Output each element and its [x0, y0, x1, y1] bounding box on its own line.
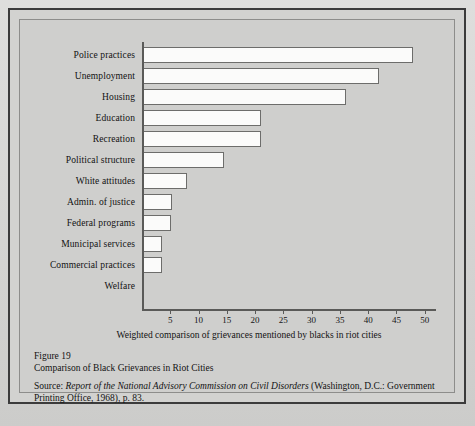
bar-track	[142, 234, 452, 255]
bar-track	[142, 108, 452, 129]
bar-track	[142, 171, 452, 192]
bar-rows: Police practicesUnemploymentHousingEduca…	[20, 45, 454, 297]
bar-track	[142, 87, 452, 108]
bar-track	[142, 213, 452, 234]
x-axis-tick-label: 25	[279, 315, 288, 325]
chart-plot-area: Police practicesUnemploymentHousingEduca…	[20, 20, 454, 306]
page-background: Police practicesUnemploymentHousingEduca…	[0, 0, 475, 426]
x-axis-tick	[312, 309, 313, 314]
figure-number: Figure 19	[34, 350, 440, 362]
x-axis-tick	[227, 309, 228, 314]
bar	[142, 152, 224, 168]
bar	[142, 68, 379, 84]
x-axis-tick-label: 20	[251, 315, 260, 325]
bar-category-label: Political structure	[20, 150, 135, 171]
x-axis-tick-label: 35	[335, 315, 344, 325]
x-axis-line	[142, 309, 436, 311]
x-axis-tick-label: 5	[168, 315, 173, 325]
x-axis-tick	[170, 309, 171, 314]
bar	[142, 215, 171, 231]
bar-row: Political structure	[20, 150, 454, 171]
y-axis-line	[142, 42, 144, 310]
x-axis-tick	[425, 309, 426, 314]
x-axis-tick-label: 40	[364, 315, 373, 325]
bar	[142, 173, 187, 189]
figure-inner-border: Police practicesUnemploymentHousingEduca…	[19, 19, 455, 393]
bar-row: White attitudes	[20, 171, 454, 192]
figure-caption: Figure 19 Comparison of Black Grievances…	[34, 350, 440, 405]
bar-track	[142, 150, 452, 171]
bar-category-label: Housing	[20, 87, 135, 108]
bar-row: Recreation	[20, 129, 454, 150]
x-axis-tick	[255, 309, 256, 314]
bar-track	[142, 66, 452, 87]
figure-frame: Police practicesUnemploymentHousingEduca…	[8, 8, 466, 404]
bar-category-label: Unemployment	[20, 66, 135, 87]
bar-row: Commercial practices	[20, 255, 454, 276]
x-axis-title: Weighted comparison of grievances mentio…	[20, 330, 454, 340]
x-axis-tick	[340, 309, 341, 314]
bar-category-label: Education	[20, 108, 135, 129]
bar-track	[142, 192, 452, 213]
bar	[142, 110, 261, 126]
x-axis-tick-label: 10	[194, 315, 203, 325]
bar-category-label: Admin. of justice	[20, 192, 135, 213]
x-axis-tick	[283, 309, 284, 314]
bar	[142, 257, 162, 273]
bar-row: Unemployment	[20, 66, 454, 87]
x-axis-tick-label: 30	[307, 315, 316, 325]
x-axis-tick	[396, 309, 397, 314]
x-axis-tick-label: 50	[420, 315, 429, 325]
x-axis-tick-label: 45	[392, 315, 401, 325]
bar-row: Federal programs	[20, 213, 454, 234]
bar-row: Education	[20, 108, 454, 129]
figure-title: Comparison of Black Grievances in Riot C…	[34, 362, 440, 374]
source-label: Source:	[34, 381, 63, 391]
bar	[142, 131, 261, 147]
bar	[142, 47, 413, 63]
bar-row: Police practices	[20, 45, 454, 66]
bar-category-label: Welfare	[20, 276, 135, 297]
figure-source: Source: Report of the National Advisory …	[34, 380, 440, 405]
x-axis-tick	[368, 309, 369, 314]
bar-row: Admin. of justice	[20, 192, 454, 213]
source-title-italic: Report of the National Advisory Commissi…	[65, 381, 308, 391]
x-axis-tick-label: 15	[222, 315, 231, 325]
bar-row: Welfare	[20, 276, 454, 297]
bar-category-label: Commercial practices	[20, 255, 135, 276]
bar-category-label: Municipal services	[20, 234, 135, 255]
bar-category-label: White attitudes	[20, 171, 135, 192]
bar	[142, 194, 172, 210]
x-axis-tick	[199, 309, 200, 314]
bar-track	[142, 276, 452, 297]
bar-row: Municipal services	[20, 234, 454, 255]
bar-track	[142, 255, 452, 276]
bar-track	[142, 45, 452, 66]
bar	[142, 89, 346, 105]
bar-category-label: Federal programs	[20, 213, 135, 234]
bar-category-label: Recreation	[20, 129, 135, 150]
bar-track	[142, 129, 452, 150]
bar-category-label: Police practices	[20, 45, 135, 66]
bar	[142, 236, 162, 252]
bar-row: Housing	[20, 87, 454, 108]
